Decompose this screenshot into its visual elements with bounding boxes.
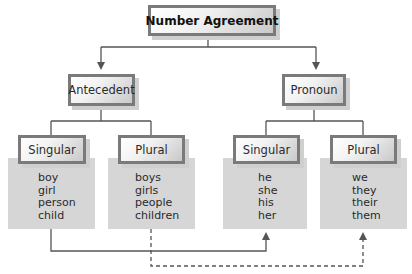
antecedent-plural-words: boys girls people children (135, 172, 179, 222)
pronoun-plural-words: we they their them (352, 172, 381, 222)
pronoun-singular-header: Singular (233, 135, 300, 164)
antecedent-singular-header: Singular (18, 135, 86, 164)
word: her (258, 210, 277, 223)
group-label: Singular (28, 143, 75, 157)
group-label: Plural (135, 143, 167, 157)
pronoun-singular-words: he she his her (258, 172, 277, 222)
pronoun-box: Pronoun (282, 74, 346, 106)
word: their (352, 197, 381, 210)
word: child (38, 210, 76, 223)
antecedent-label: Antecedent (68, 83, 134, 97)
word: boys (135, 172, 179, 185)
pronoun-label: Pronoun (290, 83, 337, 97)
group-label: Plural (347, 143, 379, 157)
antecedent-singular-words: boy girl person child (38, 172, 76, 222)
pronoun-plural-header: Plural (330, 135, 397, 164)
group-label: Singular (243, 143, 290, 157)
title-box: Number Agreement (148, 5, 276, 36)
word: we (352, 172, 381, 185)
word: his (258, 197, 277, 210)
word: he (258, 172, 277, 185)
word: boy (38, 172, 76, 185)
antecedent-plural-header: Plural (118, 135, 185, 164)
antecedent-box: Antecedent (68, 74, 135, 106)
word: them (352, 210, 381, 223)
title-label: Number Agreement (146, 14, 279, 28)
word: people (135, 197, 179, 210)
word: person (38, 197, 76, 210)
word: children (135, 210, 179, 223)
